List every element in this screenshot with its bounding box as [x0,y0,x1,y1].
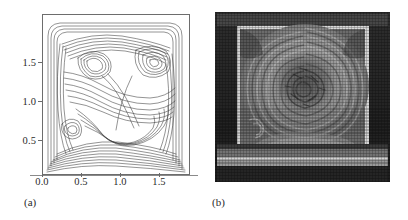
flow-visualization-photo [215,12,390,182]
y-tick-mark [38,62,42,63]
streamline-contours [42,14,190,175]
figure-two-panel: 0.0 0.5 1.0 1.5 0.5 1.0 1.5 (a) [0,0,408,220]
x-tick-label-0: 0.0 [35,176,48,187]
y-tick-label-0: 0.5 [10,135,36,146]
y-tick-label-2: 1.5 [10,57,36,68]
x-tick-label-3: 1.5 [152,176,165,187]
photo-content [215,12,390,182]
panel-caption-a: (a) [24,196,36,208]
panel-a-contour-plot: 0.0 0.5 1.0 1.5 0.5 1.0 1.5 (a) [0,0,204,220]
y-tick-label-1: 1.0 [10,96,36,107]
y-tick-mark [38,101,42,102]
plot-area-a [42,14,190,175]
panel-caption-b: (b) [212,196,225,208]
y-tick-mark [38,140,42,141]
x-tick-label-1: 0.5 [74,176,87,187]
x-tick-label-2: 1.0 [113,176,126,187]
panel-b-photograph: (b) [204,0,408,220]
